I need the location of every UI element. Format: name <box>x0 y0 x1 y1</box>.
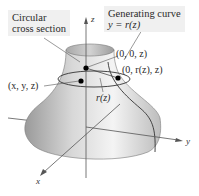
z-axis-arrowhead <box>84 17 88 24</box>
circular-cross-section-label-line2: cross section <box>12 23 66 34</box>
point-axis <box>83 65 88 70</box>
generating-curve-equation: y = r(z) <box>108 19 181 30</box>
point-curve-label: (0, r(z), z) <box>122 64 163 75</box>
generating-curve-label-line1: Generating curve <box>108 8 181 19</box>
y-axis-label: y <box>186 136 190 146</box>
point-axis-label: (0, 0, z) <box>116 48 147 59</box>
generating-curve-label: Generating curve y = r(z) <box>104 6 185 32</box>
radius-label: r(z) <box>96 92 110 103</box>
z-axis-label: z <box>91 14 95 24</box>
circular-cross-section-label-line1: Circular <box>12 12 66 23</box>
y-axis-arrowhead <box>175 138 183 142</box>
point-general <box>78 78 83 83</box>
surface-of-revolution-figure: Circular cross section Generating curve … <box>0 0 199 196</box>
point-curve <box>115 75 120 80</box>
point-general-label: (x, y, z) <box>8 80 38 91</box>
x-axis-label: x <box>36 176 40 186</box>
top-rim <box>66 44 114 56</box>
circular-cross-section-label: Circular cross section <box>8 10 70 36</box>
